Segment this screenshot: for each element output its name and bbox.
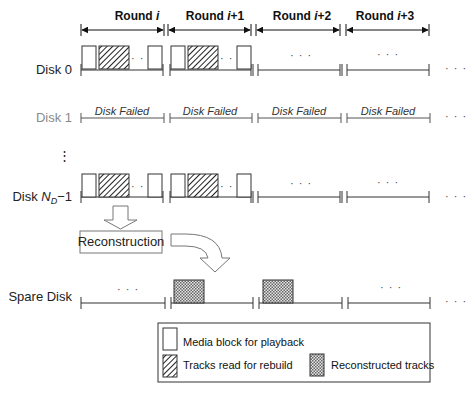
svg-text:· · ·: · · · <box>117 283 139 295</box>
disk-n-row: Disk ND−1 · · · · · · · · · · · · · · · <box>12 174 467 206</box>
svg-text:Round i+3: Round i+3 <box>356 9 415 23</box>
legend-tracks-label: Tracks read for rebuild <box>183 359 293 371</box>
round-headers: Round i Round i+1 Round i+2 Round i+3 <box>81 9 429 36</box>
svg-text:Round i+1: Round i+1 <box>186 9 245 23</box>
disk-failed-label: Disk Failed <box>272 105 327 117</box>
round-header-1: Round i+1 <box>168 9 251 36</box>
media-block <box>237 174 251 197</box>
disk-failed-label: Disk Failed <box>95 105 150 117</box>
vertical-ellipsis: ⋮ <box>58 148 71 163</box>
legend-reconstructed-label: Reconstructed tracks <box>331 359 435 371</box>
media-block <box>171 46 185 69</box>
reconstructed-block <box>263 280 293 303</box>
tracks-read-block <box>99 174 129 197</box>
spare-disk-label: Spare Disk <box>8 289 72 304</box>
media-block <box>148 46 162 69</box>
disk-0-row: Disk 0 · · · · · · · · · · · · · · · <box>36 46 467 77</box>
spare-disk-row: Spare Disk · · · · · · · · · <box>8 280 467 309</box>
round-header-0: Round i <box>81 9 164 36</box>
legend-tracks-swatch <box>163 355 177 377</box>
svg-text:· · ·: · · · <box>290 49 312 61</box>
media-block <box>237 46 251 69</box>
reconstruction-box: Reconstruction <box>78 231 165 253</box>
diagram-canvas: Round i Round i+1 Round i+2 Round i+3 Di… <box>0 0 475 399</box>
down-arrow-icon <box>104 206 137 229</box>
tracks-read-block <box>188 46 218 69</box>
disk-failed-label: Disk Failed <box>361 105 416 117</box>
svg-text:· · ·: · · · <box>290 177 312 189</box>
disk-failed-label: Disk Failed <box>183 105 238 117</box>
disk-n-label: Disk ND−1 <box>12 189 72 206</box>
media-block <box>148 174 162 197</box>
media-block <box>82 46 96 69</box>
svg-text:· · ·: · · · <box>445 110 467 122</box>
legend-media-label: Media block for playback <box>183 336 305 348</box>
disk-1-label: Disk 1 <box>36 110 72 125</box>
reconstructed-block <box>174 280 204 303</box>
tracks-read-block <box>99 46 129 69</box>
svg-text:· · ·: · · · <box>377 176 399 188</box>
round-header-3: Round i+3 <box>346 9 429 36</box>
legend: Media block for playback Tracks read for… <box>158 323 435 382</box>
svg-text:· · ·: · · · <box>445 62 467 74</box>
svg-text:Round i: Round i <box>115 9 160 23</box>
curved-arrow-icon <box>171 234 230 272</box>
media-block <box>82 174 96 197</box>
svg-text:Round i+2: Round i+2 <box>273 9 332 23</box>
svg-text:Reconstruction: Reconstruction <box>78 234 165 249</box>
disk-0-label: Disk 0 <box>36 62 72 77</box>
svg-text:· · ·: · · · <box>380 281 402 293</box>
media-block <box>171 174 185 197</box>
svg-text:· · ·: · · · <box>445 190 467 202</box>
legend-media-swatch <box>163 328 177 350</box>
tracks-read-block <box>188 174 218 197</box>
svg-text:· · ·: · · · <box>445 295 467 307</box>
disk-1-row: Disk 1 Disk Failed Disk Failed Disk Fail… <box>36 105 467 125</box>
legend-reconstructed-swatch <box>310 354 324 376</box>
svg-text:· · ·: · · · <box>377 48 399 60</box>
round-header-2: Round i+2 <box>256 9 340 36</box>
